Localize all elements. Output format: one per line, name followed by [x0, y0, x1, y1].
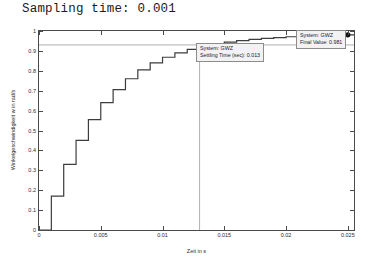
y-tick-right [350, 210, 354, 211]
y-tick-right [350, 71, 354, 72]
y-tick-label: 0.8 [28, 68, 36, 74]
final-value-text: Final Value: 0.981 [300, 39, 342, 46]
y-tick-right [350, 111, 354, 112]
y-tick-right [350, 150, 354, 151]
y-tick-right [350, 131, 354, 132]
x-tick-label: 0.01 [157, 232, 168, 238]
x-tick-label: 0.015 [217, 232, 231, 238]
y-tick [39, 91, 43, 92]
y-tick [39, 150, 43, 151]
x-tick-label: 0 [37, 232, 40, 238]
x-tick-label: 0.025 [341, 232, 355, 238]
figure-window: Sampling time: 0.001 00.10.20.30.40.50.6… [0, 0, 368, 268]
settling-time-system: System: GWZ [200, 45, 260, 52]
y-tick-label: 0.7 [28, 88, 36, 94]
x-tick [224, 31, 225, 35]
y-axis-label: Winkelgeschwindigkeit w in rad/s [10, 90, 16, 170]
y-tick-label: 0.9 [28, 48, 36, 54]
x-tick-bottom [348, 226, 349, 230]
x-axis-label: Zeit in s [38, 248, 355, 254]
x-tick-bottom [101, 226, 102, 230]
x-tick-bottom [224, 226, 225, 230]
x-tick [286, 31, 287, 35]
x-tick-label: 0.02 [281, 232, 292, 238]
y-tick [39, 51, 43, 52]
y-tick-right [350, 91, 354, 92]
y-tick-label: 0.1 [28, 207, 36, 213]
final-value-system: System: GWZ [300, 32, 342, 39]
final-value-datatip[interactable]: System: GWZ Final Value: 0.981 [296, 30, 346, 49]
settling-time-text: Settling Time (sec): 0.013 [200, 52, 260, 59]
y-tick [39, 131, 43, 132]
y-tick-label: 0 [33, 227, 36, 233]
y-tick-right [350, 51, 354, 52]
y-tick-right [350, 31, 354, 32]
y-tick-label: 0.3 [28, 167, 36, 173]
x-tick [163, 31, 164, 35]
x-tick [348, 31, 349, 35]
x-tick-bottom [163, 226, 164, 230]
y-tick-label: 0.6 [28, 108, 36, 114]
y-tick-right [350, 190, 354, 191]
y-tick-label: 0.2 [28, 187, 36, 193]
y-tick [39, 111, 43, 112]
x-tick-bottom [39, 226, 40, 230]
y-tick [39, 71, 43, 72]
x-tick [101, 31, 102, 35]
settling-time-datatip[interactable]: System: GWZ Settling Time (sec): 0.013 [196, 43, 264, 62]
x-tick [39, 31, 40, 35]
y-tick-label: 0.5 [28, 128, 36, 134]
y-tick [39, 230, 43, 231]
y-tick [39, 210, 43, 211]
y-tick [39, 190, 43, 191]
y-tick-right [350, 230, 354, 231]
y-tick [39, 170, 43, 171]
x-tick-label: 0.005 [94, 232, 108, 238]
x-tick-bottom [286, 226, 287, 230]
y-tick-label: 1 [33, 28, 36, 34]
y-tick-right [350, 170, 354, 171]
chart-figure: 00.10.20.30.40.50.60.70.80.91 00.0050.01… [0, 0, 368, 268]
y-tick-label: 0.4 [28, 147, 36, 153]
